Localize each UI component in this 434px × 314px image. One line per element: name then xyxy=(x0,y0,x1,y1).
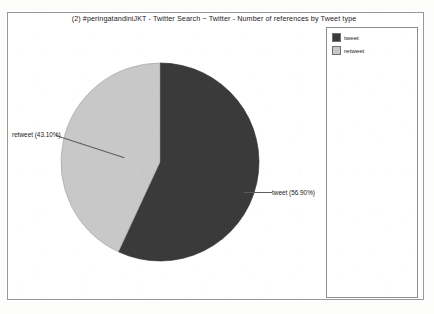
leader-line-tweet xyxy=(244,192,272,193)
chart-title: (2) #peringatandiniJKT - Twitter Search … xyxy=(9,14,419,23)
chart-legend: tweet retweet xyxy=(326,27,418,298)
legend-swatch-retweet xyxy=(332,46,341,55)
legend-item-tweet[interactable]: tweet xyxy=(332,33,359,42)
pie-label-tweet: tweet (56.90%) xyxy=(272,189,315,196)
pie-chart xyxy=(60,62,260,262)
pie-label-retweet: retweet (43.10%) xyxy=(12,131,61,138)
legend-item-retweet[interactable]: retweet xyxy=(332,46,364,55)
pie-svg xyxy=(60,62,260,262)
legend-label-retweet: retweet xyxy=(344,47,364,54)
chart-screenshot: (2) #peringatandiniJKT - Twitter Search … xyxy=(0,0,434,314)
legend-swatch-tweet xyxy=(332,33,341,42)
legend-label-tweet: tweet xyxy=(344,34,359,41)
